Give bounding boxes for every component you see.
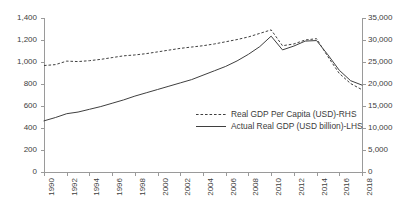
chart-legend: Real GDP Per Capita (USD)-RHS Actual Rea… xyxy=(196,110,363,131)
legend-item-actual-gdp: Actual Real GDP (USD billion)-LHS xyxy=(196,122,363,131)
real-gdp-per-capita-line xyxy=(44,30,362,90)
legend-key-solid-icon xyxy=(196,123,226,130)
chart-container: 02004006008001,0001,2001,400 05,00010,00… xyxy=(0,0,419,223)
legend-key-dashed-icon xyxy=(196,111,226,118)
legend-label-actual-gdp: Actual Real GDP (USD billion)-LHS xyxy=(231,122,363,131)
legend-label-per-capita: Real GDP Per Capita (USD)-RHS xyxy=(231,110,357,119)
legend-item-per-capita: Real GDP Per Capita (USD)-RHS xyxy=(196,110,363,119)
